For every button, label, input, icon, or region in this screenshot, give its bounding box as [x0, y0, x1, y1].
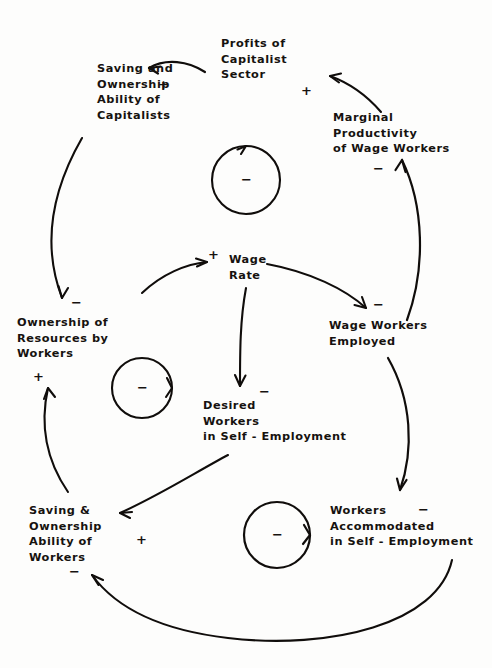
node-saving-and-ownership-ability-of-capitalists: Saving and Ownership Ability of Capitali…: [97, 61, 173, 123]
arrow-wage-workers-to-workers-accom: [388, 358, 409, 490]
arrow-desired-workers-to-saving-workers: [120, 455, 228, 518]
node-profits-of-capitalist-sector: Profits of Capitalist Sector: [221, 36, 287, 83]
sign-saving-workers-incoming: +: [136, 533, 147, 546]
sign-workers-accommodated-incoming: −: [418, 503, 429, 516]
sign-wage-workers-incoming: −: [373, 298, 384, 311]
sign-profits-from-marginal-productivity: +: [301, 84, 312, 97]
arrow-saving-capitalists-to-ownership-workers: [51, 138, 82, 298]
arrow-marginal-prod-to-profits: [330, 74, 381, 113]
node-desired-workers-in-self-employment: Desired Workers in Self - Employment: [203, 398, 346, 445]
arrow-wage-rate-to-wage-workers: [267, 264, 366, 308]
sign-saving-workers-from-below: −: [69, 565, 80, 578]
arrow-saving-workers-to-ownership-workers: [44, 388, 68, 492]
sign-marginal-productivity-incoming: −: [373, 162, 384, 175]
loop-middle-polarity: −: [137, 380, 148, 395]
node-wage-workers-employed: Wage Workers Employed: [329, 318, 428, 349]
node-ownership-of-resources-by-workers: Ownership of Resources by Workers: [17, 315, 109, 362]
arrow-ownership-workers-to-wage-rate: [142, 259, 207, 294]
sign-saving-capitalists-incoming: +: [158, 78, 169, 91]
arrow-workers-accom-to-saving-workers: [92, 560, 452, 641]
node-marginal-productivity-of-wage-workers: Marginal Productivity of Wage Workers: [333, 110, 450, 157]
loop-bottom-polarity: −: [272, 527, 283, 542]
loop-top-polarity: −: [241, 172, 252, 187]
arrow-wage-workers-to-marginal-prod: [396, 160, 420, 320]
node-saving-and-ownership-ability-of-workers: Saving & Ownership Ability of Workers: [29, 503, 102, 565]
sign-ownership-workers-incoming: −: [71, 296, 82, 309]
sign-ownership-workers-from-below: +: [33, 370, 44, 383]
node-workers-accommodated-in-self-employment: Workers Accommodated in Self - Employmen…: [330, 503, 473, 550]
sign-wage-rate-incoming: +: [208, 248, 219, 261]
node-wage-rate: Wage Rate: [229, 252, 267, 283]
causal-loop-diagram: Profits of Capitalist Sector Saving and …: [0, 0, 492, 668]
sign-desired-workers-incoming: −: [259, 385, 270, 398]
arrow-wage-rate-to-desired-workers: [235, 288, 246, 386]
